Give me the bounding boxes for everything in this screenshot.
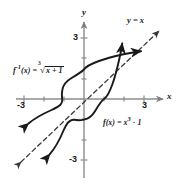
function-label-lead: f(x) = x [103,118,128,127]
y-axis-label: y [82,8,86,17]
identity-line-label: y = x [127,16,144,25]
x-tick-label-negative-3: -3 [17,101,25,110]
x-axis-label: x [167,92,172,101]
inverse-function-label-mid: (x) = [21,66,37,75]
function-label-tail: - 1 [133,118,142,127]
x-tick-label-3: 3 [142,101,147,110]
graph-canvas [0,0,182,188]
inverse-function-label: f-1(x) = 3√x + 1 [13,64,64,75]
y-tick-label-3: 3 [73,33,78,42]
axis-lines [16,22,163,178]
math-graph-figure: -3 3 3 -3 y x y = x f-1(x) = 3√x + 1 f(x… [0,0,182,188]
radicand: x + 1 [45,66,64,75]
function-exponent: 3 [128,115,131,122]
y-tick-label-negative-3: -3 [69,155,77,164]
radical-group: 3√x + 1 [39,66,64,75]
curve-f-inverse-cuberoot [29,51,142,123]
radical-index: 3 [38,61,41,67]
function-label: f(x) = x3 - 1 [103,116,141,127]
